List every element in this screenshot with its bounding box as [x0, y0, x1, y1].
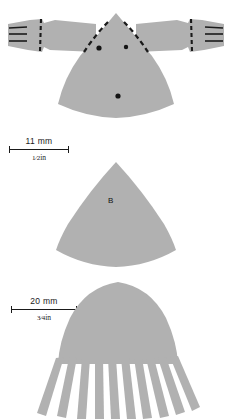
- dot-bottom: [115, 93, 120, 98]
- plate-illustration: 11 mm 1⁄2in B 20 mm 3⁄4in: [0, 0, 232, 419]
- fringe-strip: [121, 358, 136, 419]
- plain-fan-sector: [56, 162, 176, 267]
- fringe-strip: [95, 358, 104, 419]
- figure-b-label: B: [108, 196, 114, 205]
- figure-fringed-dome-pattern: [28, 280, 208, 419]
- dot-right: [124, 45, 128, 49]
- scale-bar-upper: 11 mm 1⁄2in: [8, 136, 70, 163]
- figure-winged-fan-pattern: [0, 0, 232, 135]
- fringe-strip: [108, 358, 120, 419]
- dot-left: [96, 45, 101, 50]
- right-wing-arm: [136, 19, 224, 52]
- left-wing-arm: [8, 19, 96, 52]
- fringe-strip: [77, 358, 90, 419]
- fringe-strips: [37, 356, 200, 419]
- scale-bar-upper-rule: [8, 146, 70, 153]
- dome-body: [58, 282, 178, 364]
- figure-plain-fan-pattern: [38, 160, 198, 275]
- scale-bar-upper-metric: 11 mm: [8, 136, 70, 146]
